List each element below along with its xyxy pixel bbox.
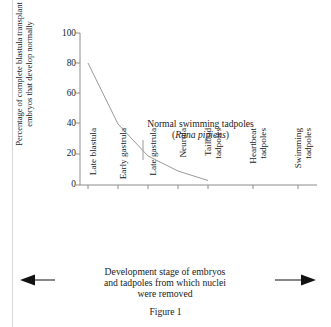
curve-annotation-species: Rana pipiens <box>175 129 225 140</box>
curve-annotation: Normal swimming tadpoles (Rana pipiens) <box>118 118 283 141</box>
x-axis-title: Development stage of embryos and tadpole… <box>60 266 270 299</box>
plot-area <box>0 0 331 200</box>
figure-1-chart: Percentage of complete blastula transpla… <box>0 0 331 327</box>
x-axis-title-line-2: and tadpoles from which nuclei <box>60 277 270 288</box>
x-tick-late-blastula-line-1: Late blastula <box>88 128 98 190</box>
curve-annotation-line-2: (Rana pipiens) <box>118 129 283 140</box>
arrow-head-left-icon <box>20 275 35 286</box>
x-tick-swimming-tadpoles-line-1: Swimming <box>293 128 303 190</box>
x-axis-title-line-1: Development stage of embryos <box>60 266 270 277</box>
curve-annotation-line-1: Normal swimming tadpoles <box>118 118 283 129</box>
figure-caption: Figure 1 <box>0 306 331 317</box>
x-axis-title-line-3: were removed <box>60 288 270 299</box>
arrow-head-right-icon <box>301 275 316 286</box>
y-tick-marks <box>76 33 80 185</box>
curve-annotation-paren-close: ) <box>226 129 229 140</box>
x-tick-swimming-tadpoles-line-2: tadpoles <box>303 128 313 190</box>
